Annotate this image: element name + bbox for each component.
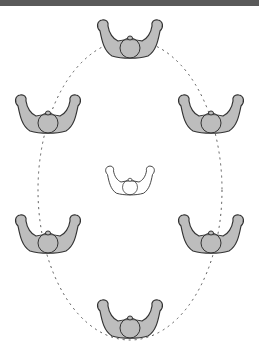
figure-lower-right — [179, 215, 244, 253]
figure-top — [98, 20, 163, 58]
figure-lower-left — [16, 215, 81, 253]
figure-center — [106, 166, 155, 195]
figure-upper-left — [16, 95, 81, 133]
formation-diagram — [0, 0, 259, 358]
figure-bottom — [98, 300, 163, 338]
figure-upper-right — [179, 95, 244, 133]
